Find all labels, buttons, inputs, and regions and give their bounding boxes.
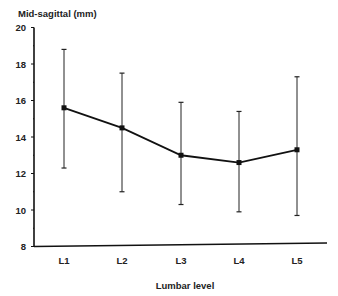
x-axis-line [34,243,327,247]
data-point-marker [237,160,242,165]
x-axis-title: Lumbar level [156,280,215,291]
y-tick-label: 18 [15,59,26,70]
y-axis-title: Mid-sagittal (mm) [18,8,97,19]
x-tick-label: L1 [58,255,70,266]
data-point-marker [62,105,67,110]
x-tick-label: L3 [175,255,186,266]
y-tick-label: 20 [15,22,26,33]
line-chart: Mid-sagittal (mm) 8101214161820 L1L2L3L4… [0,0,338,296]
x-tick-label: L4 [233,255,245,266]
x-axis: L1L2L3L4L5 [34,243,327,266]
data-point-marker [120,125,125,130]
y-tick-label: 8 [21,241,26,252]
data-series [62,49,300,215]
x-tick-label: L2 [116,255,127,266]
y-tick-label: 10 [15,205,26,216]
data-point-marker [179,153,184,158]
y-axis: 8101214161820 [15,22,34,252]
y-tick-label: 14 [15,132,26,143]
data-point-marker [295,147,300,152]
y-tick-label: 12 [15,168,26,179]
x-tick-label: L5 [291,255,303,266]
y-tick-label: 16 [15,95,26,106]
